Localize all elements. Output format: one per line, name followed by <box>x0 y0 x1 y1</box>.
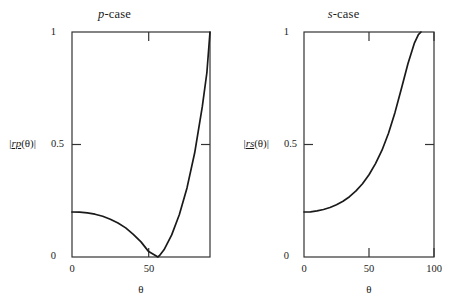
x-tick-label-50: 50 <box>139 263 159 274</box>
x-axis-ticks-bottom <box>369 248 434 257</box>
panel-p-case: p-case 1 0.5 0 <box>0 0 229 308</box>
y-axis-label-argument: (θ) <box>254 137 267 149</box>
x-axis-label: θ <box>359 283 379 295</box>
y-axis-label: |rp(θ)| <box>0 137 36 149</box>
panel-s-case: s-case 1 <box>229 0 458 308</box>
y-tick-label-1: 1 <box>40 26 56 37</box>
figure-two-panel-reflectance: p-case 1 0.5 0 <box>0 0 459 308</box>
x-tick-label-50: 50 <box>359 263 379 274</box>
y-tick-label-0: 0 <box>273 250 289 261</box>
plot-area-s-case <box>229 0 458 308</box>
data-curve-rp <box>72 32 210 257</box>
data-curve-rs <box>304 32 421 212</box>
y-axis-label-bar-close: | <box>267 137 269 149</box>
plot-frame <box>72 32 210 257</box>
y-tick-label-0-5: 0.5 <box>271 138 297 149</box>
x-tick-label-100: 100 <box>422 263 446 274</box>
plot-frame <box>304 32 434 257</box>
y-axis-label-function: rp <box>11 137 21 149</box>
x-axis-ticks-top <box>369 32 434 41</box>
y-tick-label-0: 0 <box>40 250 56 261</box>
x-tick-label-0: 0 <box>62 263 82 274</box>
y-tick-label-1: 1 <box>273 26 289 37</box>
y-axis-label-bar-close: | <box>34 137 36 149</box>
x-axis-label: θ <box>131 283 151 295</box>
y-axis-label: |rs(θ)| <box>229 137 269 149</box>
y-tick-label-0-5: 0.5 <box>40 138 64 149</box>
x-tick-label-0: 0 <box>294 263 314 274</box>
y-axis-label-function: rs <box>246 137 255 149</box>
plot-area-p-case <box>0 0 229 308</box>
y-axis-label-argument: (θ) <box>21 137 34 149</box>
